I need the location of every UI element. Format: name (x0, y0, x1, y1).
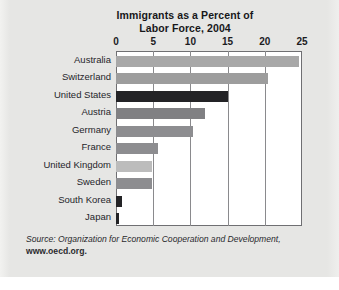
chart-title-line-1: Immigrants as a Percent of (60, 9, 310, 22)
x-axis-tick-label: 0 (113, 36, 119, 47)
bar (116, 108, 205, 119)
bar-row: Australia (116, 53, 302, 71)
category-label: France (81, 141, 111, 152)
x-axis-tick-label: 15 (222, 36, 233, 47)
category-label: Germany (72, 124, 111, 135)
bar (116, 213, 119, 224)
category-label: Austria (81, 106, 111, 117)
source-text: Source: Organization for Economic Cooper… (26, 234, 281, 244)
bar (116, 73, 268, 84)
bar-row: Japan (116, 210, 302, 228)
chart-title-line-2: Labor Force, 2004 (60, 22, 310, 35)
bar-row: United States (116, 88, 302, 106)
category-label: United States (54, 89, 111, 100)
bar (116, 56, 299, 67)
bar (116, 196, 122, 207)
bar (116, 143, 158, 154)
bar-row: Austria (116, 105, 302, 123)
bar-row: United Kingdom (116, 158, 302, 176)
category-label: United Kingdom (43, 159, 111, 170)
bar-row: Switzerland (116, 70, 302, 88)
source-url[interactable]: www.oecd.org. (26, 246, 87, 256)
x-axis-tick-label: 20 (259, 36, 270, 47)
bar (116, 126, 193, 137)
bar (116, 161, 152, 172)
bar-row: South Korea (116, 193, 302, 211)
bar-row: France (116, 140, 302, 158)
category-label: Sweden (77, 176, 111, 187)
category-label: Switzerland (62, 71, 111, 82)
x-axis-tick-label: 10 (185, 36, 196, 47)
category-label: South Korea (58, 194, 111, 205)
bar (116, 178, 152, 189)
bar (116, 91, 228, 102)
x-axis-tick-label: 25 (296, 36, 307, 47)
bar-row: Sweden (116, 175, 302, 193)
source-note: Source: Organization for Economic Cooper… (26, 234, 316, 257)
x-axis-tick-labels: 0510152025 (100, 36, 318, 50)
chart-title: Immigrants as a Percent of Labor Force, … (60, 9, 310, 35)
bar-row: Germany (116, 123, 302, 141)
x-axis-tick-label: 5 (150, 36, 156, 47)
chart-figure: Immigrants as a Percent of Labor Force, … (0, 0, 339, 277)
category-label: Australia (74, 54, 111, 65)
plot-area-wrapper: AustraliaSwitzerlandUnited StatesAustria… (116, 51, 302, 226)
category-label: Japan (85, 211, 111, 222)
